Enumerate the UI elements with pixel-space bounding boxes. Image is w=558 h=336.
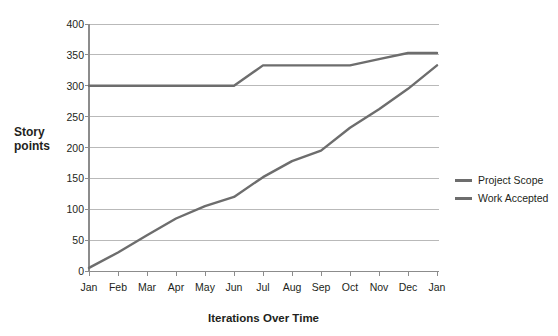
legend-label: Project Scope [478,174,543,186]
legend-swatch-icon [455,197,472,200]
chart-legend: Project ScopeWork Accepted [455,172,555,208]
legend-swatch-icon [455,179,472,182]
legend-label: Work Accepted [478,192,548,204]
legend-item[interactable]: Project Scope [455,172,555,188]
burnup-chart: Story points 050100150200250300350400 Ja… [0,0,558,336]
x-tick-label: Jan [420,282,454,293]
legend-item[interactable]: Work Accepted [455,190,555,206]
x-axis-title: Iterations Over Time [0,312,527,324]
x-tick-labels: JanFebMarAprMayJunJulAugSepOctNovDecJan [0,0,558,336]
